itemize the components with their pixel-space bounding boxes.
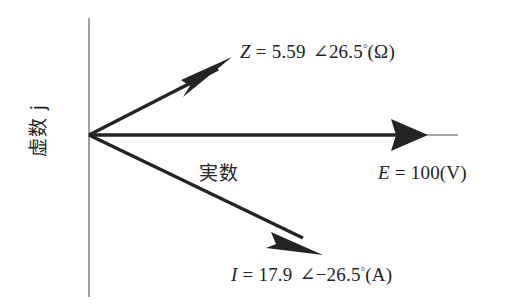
current-symbol: I [231, 264, 238, 285]
current-label: I=17.9∠−26.5°(A) [231, 265, 392, 284]
impedance-symbol: Z [240, 41, 251, 62]
impedance-angle-value: 26.5 [329, 41, 363, 62]
vector-current-shaft [89, 135, 303, 238]
impedance-unit: (Ω) [368, 41, 395, 62]
vector-impedance [89, 57, 232, 135]
voltage-label: E=100(V) [378, 163, 467, 182]
vector-voltage-arrowhead [391, 119, 428, 151]
current-angle-sign: − [316, 264, 327, 285]
voltage-unit: (V) [440, 162, 467, 183]
current-equals: = [243, 264, 254, 285]
voltage-magnitude: 100 [411, 162, 440, 183]
current-unit: (A) [365, 264, 392, 285]
vector-impedance-arrowhead [181, 57, 232, 97]
current-magnitude: 17.9 [258, 264, 292, 285]
voltage-symbol: E [378, 162, 390, 183]
vector-current [89, 135, 323, 255]
angle-symbol-icon: ∠ [313, 40, 329, 62]
voltage-equals: = [395, 162, 406, 183]
vector-voltage [89, 119, 428, 151]
impedance-equals: = [256, 41, 267, 62]
current-angle-value: 26.5 [327, 264, 361, 285]
phasor-diagram: Z=5.59∠26.5°(Ω) E=100(V) I=17.9∠−26.5°(A… [0, 0, 511, 307]
impedance-magnitude: 5.59 [272, 41, 306, 62]
real-axis-label: 実数 [199, 164, 239, 183]
impedance-label: Z=5.59∠26.5°(Ω) [240, 42, 395, 61]
angle-symbol-icon: ∠ [300, 263, 316, 285]
imaginary-axis-label: 虚数 j [29, 77, 48, 185]
